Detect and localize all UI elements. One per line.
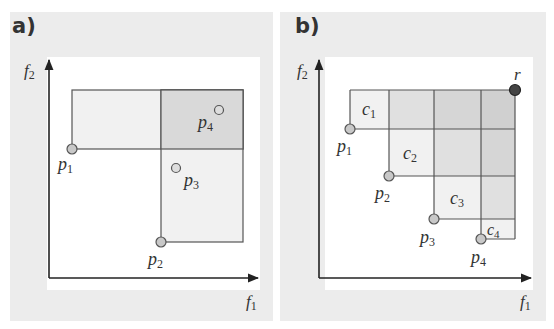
point-p4-a xyxy=(215,106,224,115)
point-p2-a xyxy=(156,237,166,247)
cell-r1-2 xyxy=(389,90,434,129)
x-axis-label-b: f1 xyxy=(520,292,531,313)
cell-r2-4 xyxy=(481,129,515,176)
panel-b-plot: f2 f1 r p1 p2 p3 p4 c1 c2 c3 c4 xyxy=(297,57,533,313)
point-p3-a xyxy=(172,164,181,173)
point-p2-b xyxy=(384,171,394,181)
diagram-canvas: f2 f1 p1 p2 p3 p4 xyxy=(0,0,554,329)
point-p1-b xyxy=(345,124,355,134)
panel-a-plot: f2 f1 p1 p2 p3 p4 xyxy=(24,57,260,313)
x-axis-label-a: f1 xyxy=(246,292,257,313)
cell-r1-4 xyxy=(481,90,515,129)
point-p4-b xyxy=(476,234,486,244)
y-axis-label-a: f2 xyxy=(24,61,35,82)
label-r: r xyxy=(514,65,521,84)
cell-r1-3 xyxy=(434,90,481,129)
point-p3-b xyxy=(429,214,439,224)
point-p1-a xyxy=(67,144,77,154)
y-axis-label-b: f2 xyxy=(297,61,308,82)
cell-r2-3 xyxy=(434,129,481,176)
reference-point-r xyxy=(510,85,521,96)
cell-r3-4 xyxy=(481,176,515,219)
